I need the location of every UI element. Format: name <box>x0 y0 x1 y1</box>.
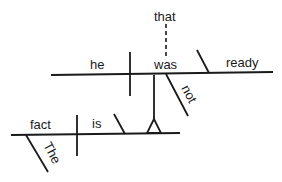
sentence-diagram: he was ready that not fact is The <box>0 0 282 182</box>
clause-baseline <box>51 72 273 75</box>
pedestal-base <box>147 119 161 133</box>
word-was: was <box>153 57 178 72</box>
clause-complement-divider <box>197 50 209 73</box>
word-is: is <box>92 116 102 131</box>
word-he: he <box>90 57 104 72</box>
word-that: that <box>154 9 176 24</box>
word-the: The <box>40 139 64 166</box>
word-ready: ready <box>226 55 259 70</box>
main-baseline <box>11 133 180 135</box>
main-complement-divider <box>114 114 125 134</box>
word-fact: fact <box>30 117 51 132</box>
